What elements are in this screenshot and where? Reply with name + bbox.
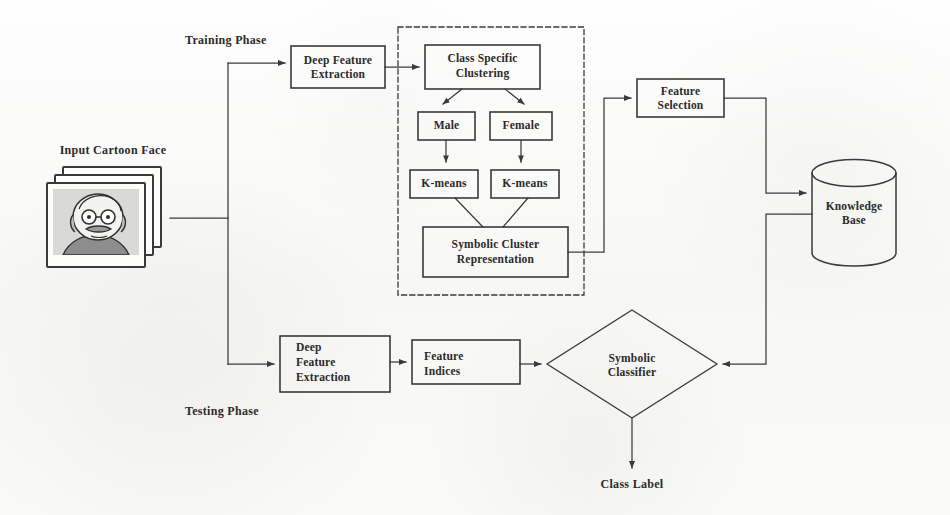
deep-feature-extraction-test-node[interactable] — [280, 336, 390, 392]
symbolic-cluster-representation-node[interactable] — [423, 227, 568, 277]
kmeans-male-node[interactable] — [410, 170, 478, 198]
kmeans-female-node[interactable] — [491, 170, 559, 198]
male-node[interactable] — [418, 112, 475, 140]
edge-kb-to-classifier — [723, 214, 812, 364]
edge-scr-to-feature-selection — [568, 98, 631, 252]
edge-kmeans-female-to-scr — [503, 198, 528, 227]
input-cartoon-face-stack[interactable] — [46, 166, 164, 274]
class-label-output: Class Label — [577, 477, 687, 492]
cartoon-face-icon — [53, 189, 139, 255]
female-node[interactable] — [490, 112, 552, 140]
feature-indices-node[interactable] — [412, 340, 520, 384]
deep-feature-extraction-train-node[interactable] — [291, 46, 385, 88]
edge-feature-selection-to-kb — [724, 98, 806, 193]
knowledge-base-node[interactable] — [812, 160, 896, 266]
training-phase-label: Training Phase — [185, 33, 267, 48]
diagram-canvas: Input Cartoon Face Training Phase Testin… — [0, 0, 950, 515]
feature-selection-node[interactable] — [637, 79, 724, 117]
image-card-front — [46, 182, 146, 268]
testing-phase-label: Testing Phase — [185, 404, 259, 419]
edge-clustering-to-male — [443, 89, 462, 104]
input-cartoon-face-caption: Input Cartoon Face — [58, 143, 168, 158]
edge-kmeans-male-to-scr — [455, 198, 483, 227]
class-specific-clustering-node[interactable] — [425, 45, 540, 89]
symbolic-classifier-node[interactable] — [547, 310, 717, 418]
edge-clustering-to-female — [505, 89, 524, 104]
